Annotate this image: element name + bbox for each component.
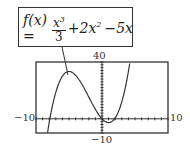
x-min-label: −10: [14, 112, 35, 123]
callout-line: [62, 47, 68, 75]
graph: [0, 0, 190, 149]
y-min-label: −10: [91, 134, 112, 145]
x-max-label: 10: [170, 112, 183, 123]
function-curve: [48, 64, 130, 133]
y-max-label: 40: [93, 50, 106, 61]
